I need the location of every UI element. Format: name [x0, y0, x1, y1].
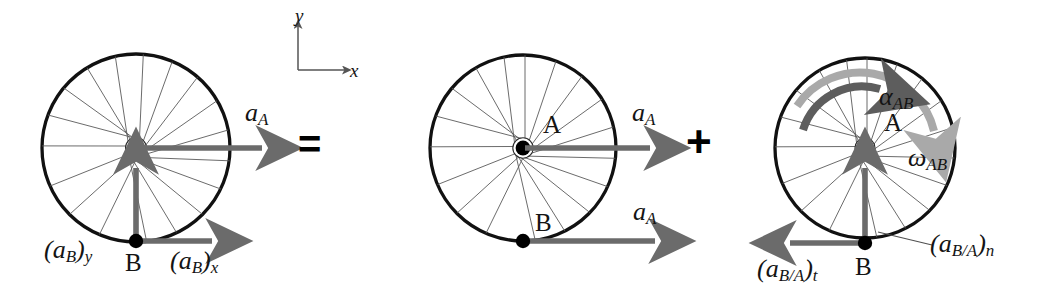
axis-x-label: x: [350, 61, 358, 80]
label-alpha-AB: αAB: [879, 84, 913, 112]
label-a-A-middle-center: aA: [632, 100, 655, 128]
label-point-A-middle: A: [543, 112, 561, 137]
label-point-B-left: B: [125, 250, 142, 275]
coordinate-axes: [298, 26, 345, 70]
leader-line-aBA-n: [878, 232, 932, 245]
label-aBA-t: (aB/A)t: [757, 256, 818, 284]
label-aBA-n: (aB/A)n: [930, 231, 994, 259]
point-B-middle: [516, 234, 530, 248]
label-a-A-middle-at-B: aA: [633, 199, 656, 227]
label-point-B-right: B: [855, 254, 872, 279]
plus-operator: +: [686, 120, 712, 164]
label-point-B-middle: B: [535, 210, 552, 235]
label-point-A-right: A: [884, 110, 902, 135]
axis-y-label: y: [295, 6, 303, 25]
label-a-A-left: aA: [245, 100, 268, 128]
label-aB-x: (aB)x: [170, 248, 218, 276]
point-B-left: [129, 234, 143, 248]
equals-operator: =: [298, 124, 321, 164]
point-B-right: [858, 236, 872, 250]
figure-canvas: y x = + aA (aB)y B (aB)x A B aA aA αAB A…: [0, 0, 1040, 296]
label-omega-AB: ωAB: [908, 145, 947, 173]
diagram-svg: [0, 0, 1040, 296]
label-aB-y: (aB)y: [44, 237, 92, 265]
